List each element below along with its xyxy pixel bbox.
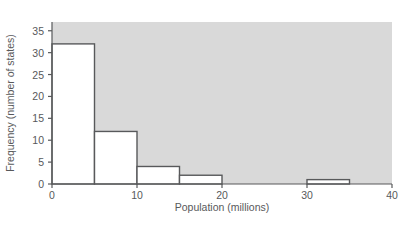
x-axis-tick-label: 10	[131, 189, 143, 201]
x-axis-tick-label: 0	[49, 189, 55, 201]
histogram-chart: 05101520253035 010203040 Population (mil…	[0, 0, 413, 228]
histogram-figure: 05101520253035 010203040 Population (mil…	[0, 0, 413, 228]
x-axis-tick-label: 20	[216, 189, 228, 201]
y-axis-tick-label: 20	[32, 90, 44, 102]
histogram-bar	[307, 180, 350, 184]
x-axis-tick-label: 30	[301, 189, 313, 201]
x-axis-tick-label: 40	[386, 189, 398, 201]
y-axis-tick-label: 30	[32, 47, 44, 59]
x-axis-ticks: 010203040	[49, 184, 398, 201]
y-axis-tick-label: 5	[38, 156, 44, 168]
y-axis-tick-label: 0	[38, 178, 44, 190]
y-axis-tick-label: 15	[32, 112, 44, 124]
histogram-bar	[95, 131, 138, 184]
histogram-bar	[52, 44, 95, 184]
histogram-bar	[180, 175, 223, 184]
y-axis-tick-label: 25	[32, 69, 44, 81]
y-axis-tick-label: 35	[32, 25, 44, 37]
y-axis-label: Frequency (number of states)	[4, 34, 16, 172]
histogram-bar	[137, 166, 180, 184]
x-axis-label: Population (millions)	[175, 201, 270, 213]
y-axis-tick-label: 10	[32, 134, 44, 146]
y-axis-ticks: 05101520253035	[32, 25, 52, 190]
